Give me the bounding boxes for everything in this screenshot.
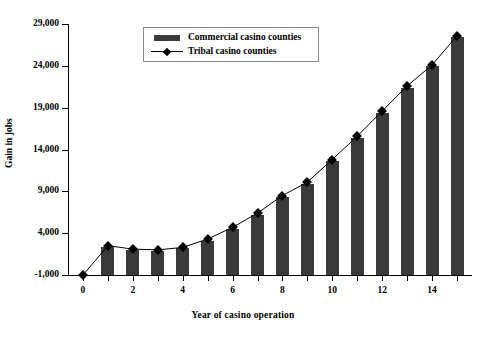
x-tick — [208, 275, 209, 281]
y-tick-label: -1,000 — [34, 270, 59, 280]
bar — [326, 161, 339, 275]
x-tick — [282, 275, 283, 281]
x-axis-title: Year of casino operation — [0, 310, 486, 320]
bar — [426, 66, 439, 275]
bar — [101, 247, 114, 275]
bar — [226, 229, 239, 275]
legend-label-commercial: Commercial casino counties — [188, 33, 301, 43]
y-tick-label: 9,000 — [38, 186, 59, 196]
x-tick-label: 4 — [180, 286, 185, 296]
x-tick-label: 0 — [81, 286, 86, 296]
legend-bar-swatch-icon — [150, 31, 184, 45]
y-tick-label: 14,000 — [33, 145, 59, 155]
x-tick — [307, 275, 308, 281]
y-tick-label: 24,000 — [33, 61, 59, 71]
bar — [251, 215, 264, 275]
x-tick — [432, 275, 433, 281]
x-tick-label: 10 — [328, 286, 338, 296]
x-tick — [233, 275, 234, 281]
y-tick-label: 29,000 — [33, 19, 59, 29]
x-tick — [158, 275, 159, 281]
chart-legend: Commercial casino counties Tribal casino… — [143, 27, 319, 62]
bar — [126, 250, 139, 275]
x-tick — [258, 275, 259, 281]
bar — [401, 88, 414, 275]
bar — [451, 37, 464, 275]
legend-label-tribal: Tribal casino counties — [188, 47, 277, 57]
y-tick-label: 4,000 — [38, 228, 59, 238]
bar — [176, 248, 189, 275]
x-tick — [407, 275, 408, 281]
x-tick-label: 8 — [280, 286, 285, 296]
bar — [151, 251, 164, 275]
legend-entry-commercial: Commercial casino counties — [150, 31, 301, 45]
bar — [201, 241, 214, 275]
x-tick-label: 6 — [230, 286, 235, 296]
x-tick — [457, 275, 458, 281]
x-tick — [382, 275, 383, 281]
y-tick-label: 19,000 — [33, 103, 59, 113]
x-tick-label: 12 — [377, 286, 387, 296]
legend-entry-tribal: Tribal casino counties — [150, 45, 277, 59]
bar — [376, 113, 389, 275]
bar — [276, 197, 289, 275]
legend-line-marker-icon — [150, 45, 184, 59]
y-axis-title: Gain in jobs — [4, 118, 14, 168]
x-tick-label: 14 — [427, 286, 437, 296]
bar — [301, 184, 314, 275]
chart-figure: 29,00024,00019,00014,0009,0004,000-1,000… — [0, 0, 486, 337]
x-tick — [332, 275, 333, 281]
x-tick — [183, 275, 184, 281]
bar — [351, 138, 364, 275]
x-tick — [133, 275, 134, 281]
x-tick — [357, 275, 358, 281]
x-tick — [83, 275, 84, 281]
y-tick — [62, 275, 69, 276]
x-tick — [108, 275, 109, 281]
x-axis-line — [68, 275, 472, 276]
x-tick-label: 2 — [130, 286, 135, 296]
